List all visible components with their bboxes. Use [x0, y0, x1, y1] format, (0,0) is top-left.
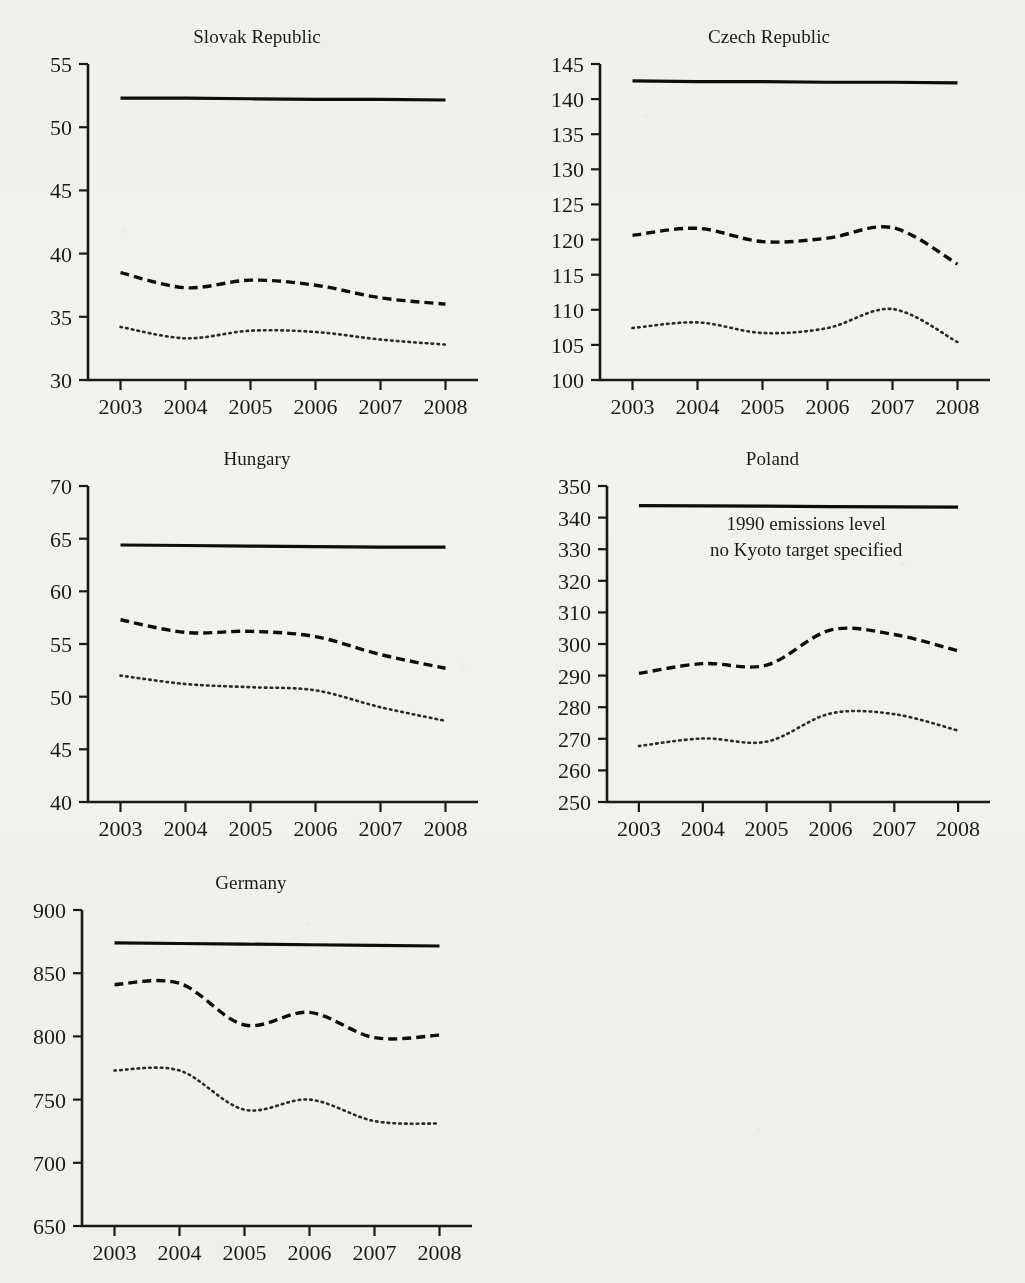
y-tick-label: 900 — [33, 898, 66, 923]
x-tick-label: 2005 — [741, 394, 785, 419]
y-tick-label: 105 — [551, 333, 584, 358]
y-tick-label: 330 — [558, 537, 591, 562]
chart-panel-poland: Poland2502602702802903003103203303403502… — [545, 476, 1000, 846]
chart-panel-hungary: Hungary404550556065702003200420052006200… — [26, 476, 488, 846]
y-tick-label: 350 — [558, 474, 591, 499]
series-solid — [633, 81, 958, 83]
y-tick-label: 65 — [50, 527, 72, 552]
y-tick-label: 130 — [551, 157, 584, 182]
y-tick-label: 40 — [50, 242, 72, 267]
x-tick-label: 2006 — [288, 1240, 332, 1265]
x-tick-label: 2004 — [164, 394, 208, 419]
y-tick-label: 100 — [551, 368, 584, 393]
x-tick-label: 2007 — [353, 1240, 397, 1265]
x-tick-label: 2008 — [418, 1240, 462, 1265]
y-tick-label: 70 — [50, 474, 72, 499]
x-tick-label: 2006 — [806, 394, 850, 419]
chart-panel-czech-republic: Czech Republic10010511011512012513013514… — [538, 54, 1000, 424]
series-solid — [115, 943, 440, 946]
series-dotted — [633, 309, 958, 342]
y-tick-label: 125 — [551, 192, 584, 217]
x-tick-label: 2003 — [617, 816, 661, 841]
y-tick-label: 850 — [33, 961, 66, 986]
y-tick-label: 700 — [33, 1151, 66, 1176]
x-tick-label: 2008 — [424, 394, 468, 419]
x-tick-label: 2006 — [294, 816, 338, 841]
y-tick-label: 30 — [50, 368, 72, 393]
y-tick-label: 50 — [50, 685, 72, 710]
y-tick-label: 750 — [33, 1088, 66, 1113]
x-tick-label: 2005 — [745, 816, 789, 841]
series-dotted — [115, 1068, 440, 1124]
plot-area: 40455055606570200320042005200620072008 — [26, 476, 488, 846]
y-tick-label: 800 — [33, 1024, 66, 1049]
axis-spines — [88, 486, 478, 802]
y-tick-label: 120 — [551, 228, 584, 253]
x-tick-label: 2006 — [294, 394, 338, 419]
y-tick-label: 140 — [551, 87, 584, 112]
series-dashed — [639, 628, 958, 673]
x-tick-label: 2007 — [872, 816, 916, 841]
chart-annotation-line-1: 1990 emissions level — [727, 513, 886, 534]
y-tick-label: 270 — [558, 727, 591, 752]
plot-area: 2502602702802903003103203303403502003200… — [545, 476, 1000, 846]
x-tick-label: 2008 — [424, 816, 468, 841]
y-tick-label: 55 — [50, 632, 72, 657]
y-tick-label: 60 — [50, 579, 72, 604]
chart-title: Czech Republic — [538, 26, 1000, 48]
series-solid — [121, 98, 446, 100]
y-tick-label: 40 — [50, 790, 72, 815]
x-tick-label: 2004 — [158, 1240, 202, 1265]
x-tick-label: 2003 — [611, 394, 655, 419]
y-tick-label: 45 — [50, 737, 72, 762]
x-tick-label: 2004 — [164, 816, 208, 841]
series-dotted — [639, 711, 958, 746]
y-tick-label: 340 — [558, 506, 591, 531]
y-tick-label: 110 — [552, 298, 584, 323]
y-tick-label: 650 — [33, 1214, 66, 1239]
x-tick-label: 2005 — [229, 394, 273, 419]
x-tick-label: 2007 — [359, 394, 403, 419]
chart-panel-germany: Germany650700750800850900200320042005200… — [20, 900, 482, 1270]
series-dashed — [121, 620, 446, 668]
y-tick-label: 50 — [50, 115, 72, 140]
chart-title: Germany — [20, 872, 482, 894]
chart-title: Hungary — [26, 448, 488, 470]
plot-area: 303540455055200320042005200620072008 — [26, 54, 488, 424]
y-tick-label: 300 — [558, 632, 591, 657]
x-tick-label: 2007 — [871, 394, 915, 419]
series-solid — [639, 506, 958, 508]
y-tick-label: 320 — [558, 569, 591, 594]
chart-annotation-line-2: no Kyoto target specified — [710, 539, 903, 560]
y-tick-label: 55 — [50, 52, 72, 77]
y-tick-label: 135 — [551, 122, 584, 147]
series-solid — [121, 545, 446, 547]
plot-area: 1001051101151201251301351401452003200420… — [538, 54, 1000, 424]
x-tick-label: 2007 — [359, 816, 403, 841]
x-tick-label: 2003 — [93, 1240, 137, 1265]
x-tick-label: 2003 — [99, 816, 143, 841]
y-tick-label: 145 — [551, 52, 584, 77]
x-tick-label: 2003 — [99, 394, 143, 419]
chart-title: Slovak Republic — [26, 26, 488, 48]
series-dotted — [121, 676, 446, 721]
x-tick-label: 2008 — [936, 394, 980, 419]
axis-spines — [82, 910, 472, 1226]
x-tick-label: 2005 — [223, 1240, 267, 1265]
y-tick-label: 280 — [558, 695, 591, 720]
x-tick-label: 2004 — [676, 394, 720, 419]
x-tick-label: 2008 — [936, 816, 980, 841]
y-tick-label: 290 — [558, 664, 591, 689]
y-tick-label: 45 — [50, 178, 72, 203]
y-tick-label: 260 — [558, 758, 591, 783]
series-dashed — [121, 273, 446, 305]
series-dotted — [121, 327, 446, 345]
y-tick-label: 250 — [558, 790, 591, 815]
axis-spines — [88, 64, 478, 380]
y-tick-label: 115 — [552, 263, 584, 288]
y-tick-label: 35 — [50, 305, 72, 330]
x-tick-label: 2006 — [808, 816, 852, 841]
chart-title: Poland — [545, 448, 1000, 470]
y-tick-label: 310 — [558, 600, 591, 625]
x-tick-label: 2005 — [229, 816, 273, 841]
